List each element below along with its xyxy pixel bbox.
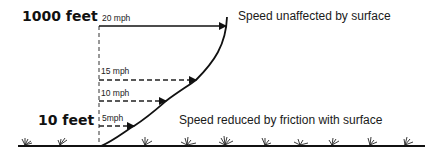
annotation-unaffected: Speed unaffected by surface (238, 9, 391, 23)
grass-tuft (22, 138, 32, 145)
speed-label-5mph: 5mph (102, 113, 123, 123)
grass-tuft (181, 137, 196, 145)
altitude-label-1000ft: 1000 feet (22, 8, 98, 24)
grass-tuft (58, 138, 67, 145)
grass-tuft (404, 137, 413, 145)
grass-tuft (294, 139, 308, 145)
speed-label-10mph: 10 mph (101, 88, 129, 98)
grass-tufts (22, 136, 413, 145)
grass-tuft (142, 137, 152, 145)
grass-tuft (329, 138, 339, 145)
altitude-label-10ft: 10 feet (38, 112, 94, 128)
grass-tuft (262, 138, 271, 145)
annotation-reduced-by-friction: Speed reduced by friction with surface (179, 113, 382, 127)
grass-tuft (219, 136, 233, 145)
speed-label-20mph: 20 mph (102, 13, 130, 23)
grass-tuft (368, 137, 377, 145)
speed-label-15mph: 15 mph (101, 66, 129, 76)
